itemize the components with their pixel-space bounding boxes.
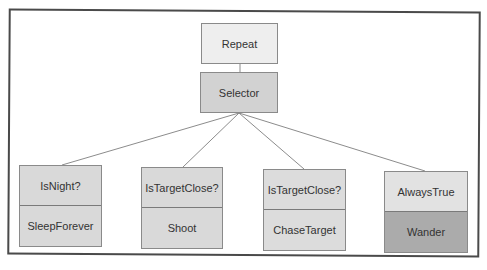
condition-label: IsNight? [40, 180, 80, 192]
condition-node: IsNight? [20, 166, 101, 206]
condition-node: AlwaysTrue [385, 172, 467, 212]
condition-label: IsTargetClose? [145, 182, 218, 194]
branch-shoot: IsTargetClose? Shoot [141, 167, 223, 249]
branch-chase-target: IsTargetClose? ChaseTarget [263, 169, 346, 251]
action-node: Shoot [142, 208, 222, 248]
branch-wander: AlwaysTrue Wander [384, 171, 468, 253]
action-node: SleepForever [20, 206, 101, 246]
selector-node: Selector [200, 72, 278, 113]
action-label: Wander [407, 226, 445, 238]
action-node: ChaseTarget [264, 210, 345, 250]
condition-node: IsTargetClose? [264, 170, 345, 210]
repeat-node: Repeat [201, 23, 278, 64]
selector-label: Selector [219, 87, 259, 99]
link-branch-4 [239, 113, 425, 171]
repeat-label: Repeat [222, 38, 257, 50]
branch-is-night: IsNight? SleepForever [19, 165, 102, 247]
action-label: ChaseTarget [273, 224, 335, 236]
action-label: SleepForever [27, 220, 93, 232]
action-node: Wander [385, 212, 467, 252]
condition-node: IsTargetClose? [142, 168, 222, 208]
link-branch-3 [239, 113, 304, 169]
condition-label: AlwaysTrue [397, 186, 454, 198]
action-label: Shoot [168, 222, 197, 234]
condition-label: IsTargetClose? [268, 184, 341, 196]
